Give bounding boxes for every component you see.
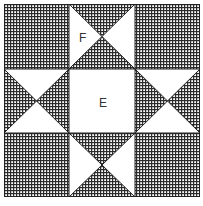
corner-square-top-left xyxy=(4,4,69,69)
label-star-point-f: F xyxy=(79,32,86,44)
corner-square-top-right xyxy=(135,4,200,69)
star-point-bottom xyxy=(69,133,135,197)
star-point-left xyxy=(4,69,69,133)
star-point-right xyxy=(135,69,200,133)
corner-square-bottom-right xyxy=(135,133,200,197)
quilt-block: F E xyxy=(4,4,200,197)
corner-square-bottom-left xyxy=(4,133,69,197)
label-center-e: E xyxy=(99,97,107,109)
